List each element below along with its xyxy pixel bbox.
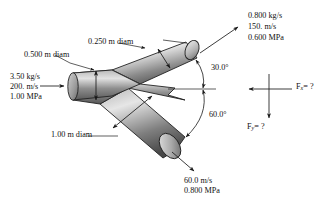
fx-value: = ?: [303, 82, 313, 91]
pipe-assembly: [68, 38, 202, 162]
figure-canvas: 0.250 m diam 0.500 m diam 1.00 m diam 3.…: [0, 0, 336, 200]
lower-angle-label: 60.0°: [209, 110, 227, 120]
fx-force-label: Fx= ?: [296, 82, 314, 92]
lower-outlet-pressure-label: 0.800 MPa: [184, 186, 220, 196]
force-axes: [249, 74, 292, 118]
inlet-velocity-label: 200. m/s: [10, 82, 38, 92]
upper-outlet-flow-arrow: [200, 27, 238, 53]
lower-outlet-velocity-label: 60.0 m/s: [184, 176, 212, 186]
upper-outlet-velocity-label: 150. m/s: [248, 22, 276, 32]
upper-outlet-mass-flow-label: 0.800 kg/s: [248, 11, 282, 21]
upper-branch-diam-label: 0.250 m diam: [88, 37, 133, 47]
inlet-pressure-label: 1.00 MPa: [10, 92, 42, 102]
upper-outlet-pressure-label: 0.600 MPa: [248, 33, 284, 43]
lower-branch-diam-label: 1.00 m diam: [51, 130, 92, 140]
upper-angle-arc: [196, 60, 204, 88]
inlet-end-cap: [68, 73, 78, 101]
lower-angle-arc: [186, 90, 204, 137]
angle-markers: [168, 60, 216, 137]
inlet-mass-flow-label: 3.50 kg/s: [10, 72, 40, 82]
lower-outlet-flow-arrow: [172, 152, 194, 171]
upper-cap-leader: [163, 40, 186, 43]
inlet-diam-label: 0.500 m diam: [24, 50, 69, 60]
fy-force-label: Fy= ?: [247, 122, 265, 132]
pipe-diagram-svg: [0, 0, 336, 200]
upper-angle-label: 30.0°: [211, 63, 229, 73]
fy-value: = ?: [254, 122, 264, 131]
lower-branch: [100, 88, 185, 163]
